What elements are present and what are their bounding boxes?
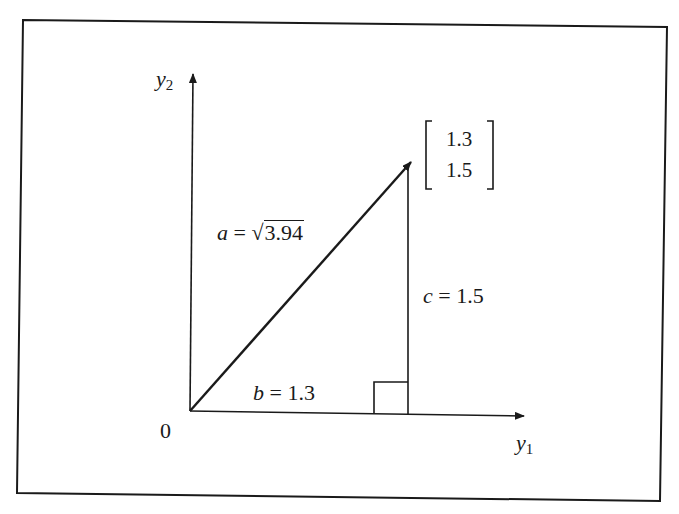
figure-frame [17,20,667,501]
right-angle-marker [374,382,408,413]
y2-axis-label: y2 [156,68,173,93]
hypotenuse-var: a [217,220,228,245]
base-var: b [253,380,264,405]
base-value: 1.3 [287,380,315,405]
hypotenuse-value: 3.94 [264,220,305,244]
sqrt-expression: √3.94 [251,220,304,244]
hypotenuse-equals: = [228,220,251,245]
vector-component-2: 1.5 [446,160,472,181]
sqrt-icon: √ [251,220,263,245]
height-value: 1.5 [456,283,484,308]
y1-label-base: y [516,430,526,455]
height-var: c [423,283,433,308]
right-bracket [487,121,493,189]
vector-arrow [190,162,411,411]
hypotenuse-label: a = √3.94 [217,220,304,244]
base-label: b = 1.3 [253,382,315,404]
height-equals: = [433,283,456,308]
y2-axis [190,74,193,411]
height-label: c = 1.5 [423,285,484,307]
base-equals: = [264,380,287,405]
y2-label-base: y [156,66,166,91]
y2-label-sub: 2 [166,77,174,93]
vector-component-1: 1.3 [446,129,472,150]
y1-axis [190,411,524,416]
y1-axis-label: y1 [516,432,533,457]
y1-label-sub: 1 [526,441,534,457]
left-bracket [426,121,432,189]
vector-diagram [0,0,679,514]
origin-label: 0 [160,420,171,442]
